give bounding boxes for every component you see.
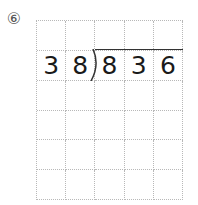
grid-cell[interactable] — [125, 21, 154, 51]
grid-cell[interactable] — [37, 140, 66, 170]
grid-cell[interactable] — [95, 170, 124, 200]
grid-cell[interactable] — [95, 81, 124, 111]
long-division-grid: 3 8 8 3 6 — [36, 20, 183, 200]
division-overline — [95, 49, 183, 50]
problem-number: ⑥ — [5, 10, 23, 28]
grid-cell[interactable] — [66, 140, 95, 170]
grid-cell[interactable] — [154, 21, 183, 51]
grid-cell[interactable] — [125, 170, 154, 200]
grid-cell[interactable] — [66, 111, 95, 141]
grid-cell[interactable] — [95, 111, 124, 141]
dividend-digit-ones: 6 — [154, 51, 183, 81]
grid-cell[interactable] — [66, 170, 95, 200]
grid-cell[interactable] — [125, 81, 154, 111]
grid-cell[interactable] — [66, 81, 95, 111]
grid-cell[interactable] — [154, 81, 183, 111]
grid-cell[interactable] — [125, 111, 154, 141]
grid-cell[interactable] — [37, 21, 66, 51]
grid-cell[interactable] — [95, 21, 124, 51]
division-bracket-icon — [89, 49, 99, 81]
grid-cell[interactable] — [37, 170, 66, 200]
divisor-digit-tens: 3 — [37, 51, 66, 81]
dividend-digit-hundreds: 8 — [95, 51, 124, 81]
grid-cell[interactable] — [37, 111, 66, 141]
grid-cell[interactable] — [37, 81, 66, 111]
grid-cell[interactable] — [154, 111, 183, 141]
grid-cell[interactable] — [154, 140, 183, 170]
grid-cell[interactable] — [125, 140, 154, 170]
dividend-digit-tens: 3 — [125, 51, 154, 81]
grid-cell[interactable] — [154, 170, 183, 200]
grid-cell[interactable] — [66, 21, 95, 51]
grid-cell[interactable] — [95, 140, 124, 170]
